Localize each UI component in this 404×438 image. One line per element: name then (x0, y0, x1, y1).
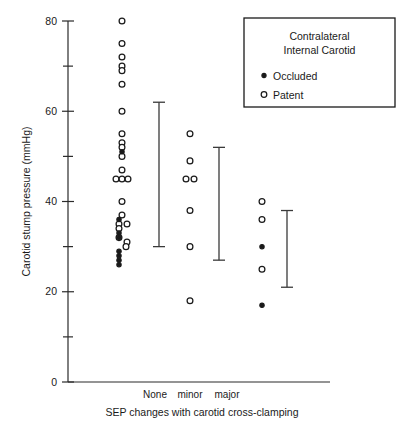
legend-title-line2: Internal Carotid (284, 44, 356, 56)
figure-caption: SEP changes with carotid cross-clamping (106, 406, 299, 418)
error-bars-group (153, 102, 293, 287)
legend-marker-patent-icon (261, 92, 267, 98)
error-bar (153, 102, 165, 246)
y-tick-label: 0 (51, 376, 57, 388)
y-axis-tick-labels: 020406080 (45, 15, 57, 388)
data-point-patent (119, 199, 125, 205)
data-point-patent (119, 18, 125, 24)
data-point-patent (187, 131, 193, 137)
data-point-occluded (117, 235, 121, 239)
scatter-plot: 020406080 Carotid stump pressure (mmHg) … (0, 0, 404, 438)
data-point-occluded (260, 303, 264, 307)
x-axis-category-label: major (214, 389, 240, 400)
legend-marker-occluded-icon (262, 73, 266, 77)
x-axis-category-label: None (143, 389, 167, 400)
error-bar (213, 147, 225, 260)
data-point-patent (123, 244, 129, 250)
data-point-patent (119, 41, 125, 47)
data-point-patent (187, 208, 193, 214)
data-point-patent (119, 167, 125, 173)
x-axis-category-label: minor (177, 389, 203, 400)
data-point-patent (187, 158, 193, 164)
data-point-patent (119, 108, 125, 114)
data-point-patent (119, 68, 125, 74)
y-tick-label: 40 (45, 195, 57, 207)
data-point-occluded (117, 258, 121, 262)
y-axis-title: Carotid stump pressure (mmHg) (20, 127, 32, 277)
data-point-patent (124, 221, 130, 227)
data-point-patent (259, 199, 265, 205)
data-point-patent (113, 176, 119, 182)
error-bar (281, 211, 293, 288)
figure-container: 020406080 Carotid stump pressure (mmHg) … (0, 0, 404, 438)
data-point-occluded (117, 217, 121, 221)
data-point-occluded (117, 253, 121, 257)
data-point-patent (119, 131, 125, 137)
data-point-occluded (120, 150, 124, 154)
data-point-patent (119, 81, 125, 87)
x-axis-category-labels: Noneminormajor (143, 389, 240, 400)
data-point-occluded (260, 244, 264, 248)
y-tick-label: 60 (45, 105, 57, 117)
data-point-patent (119, 176, 125, 182)
data-points-group (113, 18, 265, 307)
data-point-patent (183, 176, 189, 182)
legend: Contralateral Internal Carotid Occluded … (244, 18, 395, 107)
data-point-patent (191, 176, 197, 182)
data-point-patent (259, 266, 265, 272)
data-point-occluded (117, 262, 121, 266)
data-point-occluded (117, 231, 121, 235)
data-point-patent (187, 244, 193, 250)
data-point-occluded (117, 249, 121, 253)
data-point-patent (125, 176, 131, 182)
data-point-patent (259, 217, 265, 223)
legend-title-line1: Contralateral (289, 30, 349, 42)
data-point-patent (187, 298, 193, 304)
legend-label-patent: Patent (273, 89, 303, 101)
legend-label-occluded: Occluded (273, 70, 318, 82)
y-tick-label: 80 (45, 15, 57, 27)
y-tick-label: 20 (45, 285, 57, 297)
data-point-patent (119, 54, 125, 60)
